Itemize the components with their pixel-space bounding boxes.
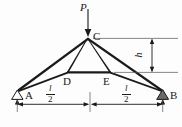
support-b-triangle-icon: [157, 90, 169, 100]
truss-figure: P C A B D E h l 2 l 2: [0, 0, 182, 127]
load-arrow-head: [85, 29, 92, 37]
load-label-p: P: [80, 2, 87, 13]
node-label-a: A: [25, 90, 33, 101]
height-label-h: h: [134, 53, 144, 58]
truss-members: [18, 38, 163, 93]
load-arrow-group: [85, 9, 92, 37]
span-dim-arrow-left-inner: [84, 102, 90, 106]
span-right-numerator: l: [122, 84, 131, 93]
member-diagonal-cd: [67, 38, 88, 72]
node-label-c: C: [93, 31, 100, 42]
node-label-d: D: [63, 76, 71, 87]
span-dim-arrow-right-inner: [91, 102, 97, 106]
member-diagonal-ce: [87, 38, 111, 72]
span-left-numerator: l: [46, 84, 55, 93]
node-label-b: B: [170, 90, 177, 101]
height-dim-arrow-top: [150, 38, 154, 44]
span-right-denominator: 2: [122, 95, 131, 104]
span-label-right-half: l 2: [122, 84, 131, 105]
node-label-e: E: [103, 76, 110, 87]
span-dimension-group: [17, 92, 162, 112]
member-chord-eb: [110, 72, 163, 93]
span-label-left-half: l 2: [46, 84, 55, 105]
truss-drawing: [0, 0, 182, 127]
height-dim-arrow-bottom: [150, 67, 154, 73]
span-left-denominator: 2: [46, 95, 55, 104]
support-a-triangle-icon: [12, 90, 23, 99]
